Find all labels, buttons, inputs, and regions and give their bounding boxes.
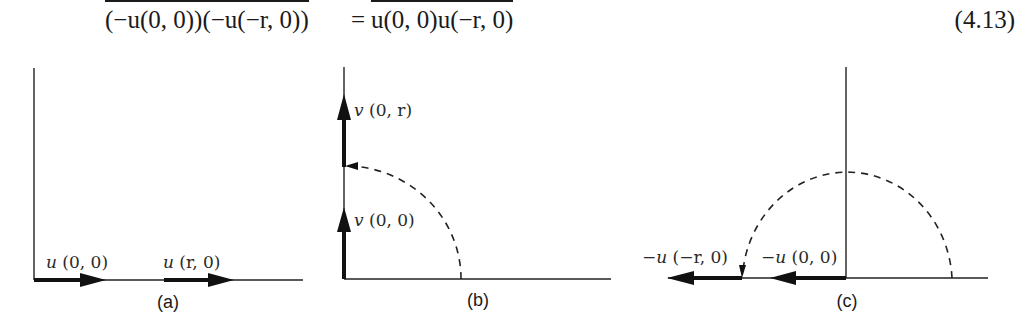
vector-u-r-0-arrow-icon	[164, 273, 234, 287]
vector-neg-u-0-0-arrow-icon	[770, 271, 846, 285]
vector-neg-u-neg-r-0-arrow-icon	[667, 271, 742, 285]
panel-b: v (0, r) v (0, 0) (b)	[337, 67, 611, 310]
label-v-0-r: v (0, r)	[354, 100, 412, 120]
caption-b: (b)	[467, 290, 489, 310]
vector-u-0-0-arrow-icon	[34, 273, 106, 287]
label-neg-u-neg-r-0: −u (−r, 0)	[642, 247, 728, 267]
caption-a: (a)	[157, 292, 179, 312]
vector-v-0-r-arrow-icon	[337, 94, 351, 167]
label-u-0-0: u (0, 0)	[46, 252, 108, 272]
rotation-figure: u (0, 0) u (r, 0) (a) v (0, r) v (0, 0) …	[0, 0, 1025, 326]
caption-c: (c)	[837, 291, 858, 311]
panel-a: u (0, 0) u (r, 0) (a)	[34, 68, 303, 312]
panel-c: −u (−r, 0) −u (0, 0) (c)	[642, 67, 988, 311]
arc-arrowhead-icon	[345, 162, 358, 170]
label-u-r-0: u (r, 0)	[163, 252, 221, 272]
vector-v-0-0-arrow-icon	[337, 207, 351, 279]
label-v-0-0: v (0, 0)	[354, 210, 415, 230]
label-neg-u-0-0: −u (0, 0)	[761, 247, 837, 267]
